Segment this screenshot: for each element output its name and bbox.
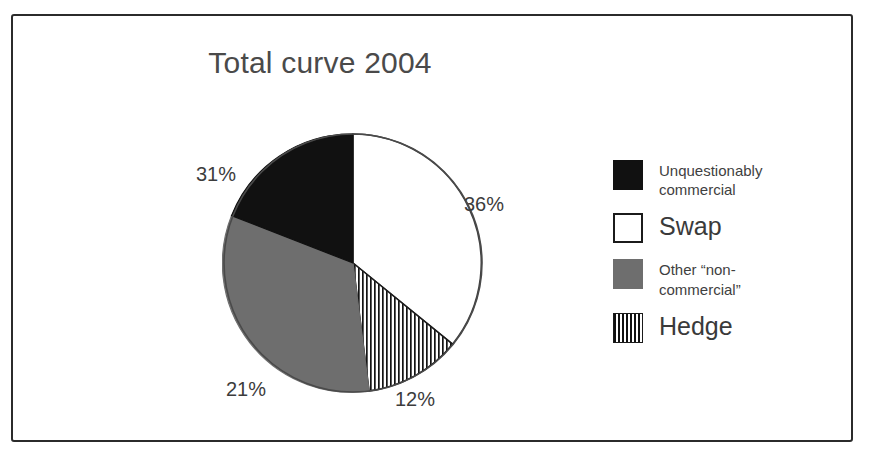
- legend-item-label: Other “non- commercial”: [659, 259, 741, 298]
- pie-chart-svg: [222, 132, 484, 394]
- gray-swatch-icon: [613, 259, 643, 289]
- legend-item-hedge: Hedge: [613, 313, 843, 343]
- page-title: Total curve 2004: [0, 46, 640, 80]
- legend-item-label: Swap: [659, 213, 722, 239]
- pie-label-hedge: 12%: [395, 388, 435, 411]
- outlined-white-swatch-icon: [613, 213, 643, 243]
- legend-item-swap: Swap: [613, 213, 843, 243]
- legend-label-line1: Other “non-: [659, 261, 736, 278]
- pie-label-swap: 36%: [464, 193, 504, 216]
- legend-label-line2: commercial”: [659, 281, 741, 298]
- figure-page: Total curve 2004 31% 36% 21% 12%: [0, 0, 869, 460]
- legend-item-other-non-commercial: Other “non- commercial”: [613, 259, 843, 298]
- legend-label-line2: commercial: [659, 181, 736, 198]
- striped-swatch-icon: [613, 313, 643, 343]
- pie-chart: [222, 132, 484, 394]
- legend-item-unquestionably-commercial: Unquestionably commercial: [613, 160, 843, 199]
- legend-label-line1: Unquestionably: [659, 162, 762, 179]
- legend-item-label: Hedge: [659, 313, 733, 339]
- solid-black-swatch-icon: [613, 160, 643, 190]
- legend-item-label: Unquestionably commercial: [659, 160, 762, 199]
- pie-label-other-non-commercial: 21%: [226, 378, 266, 401]
- pie-label-unquestionably-commercial: 31%: [196, 163, 236, 186]
- chart-legend: Unquestionably commercial Swap Other “no…: [613, 160, 843, 359]
